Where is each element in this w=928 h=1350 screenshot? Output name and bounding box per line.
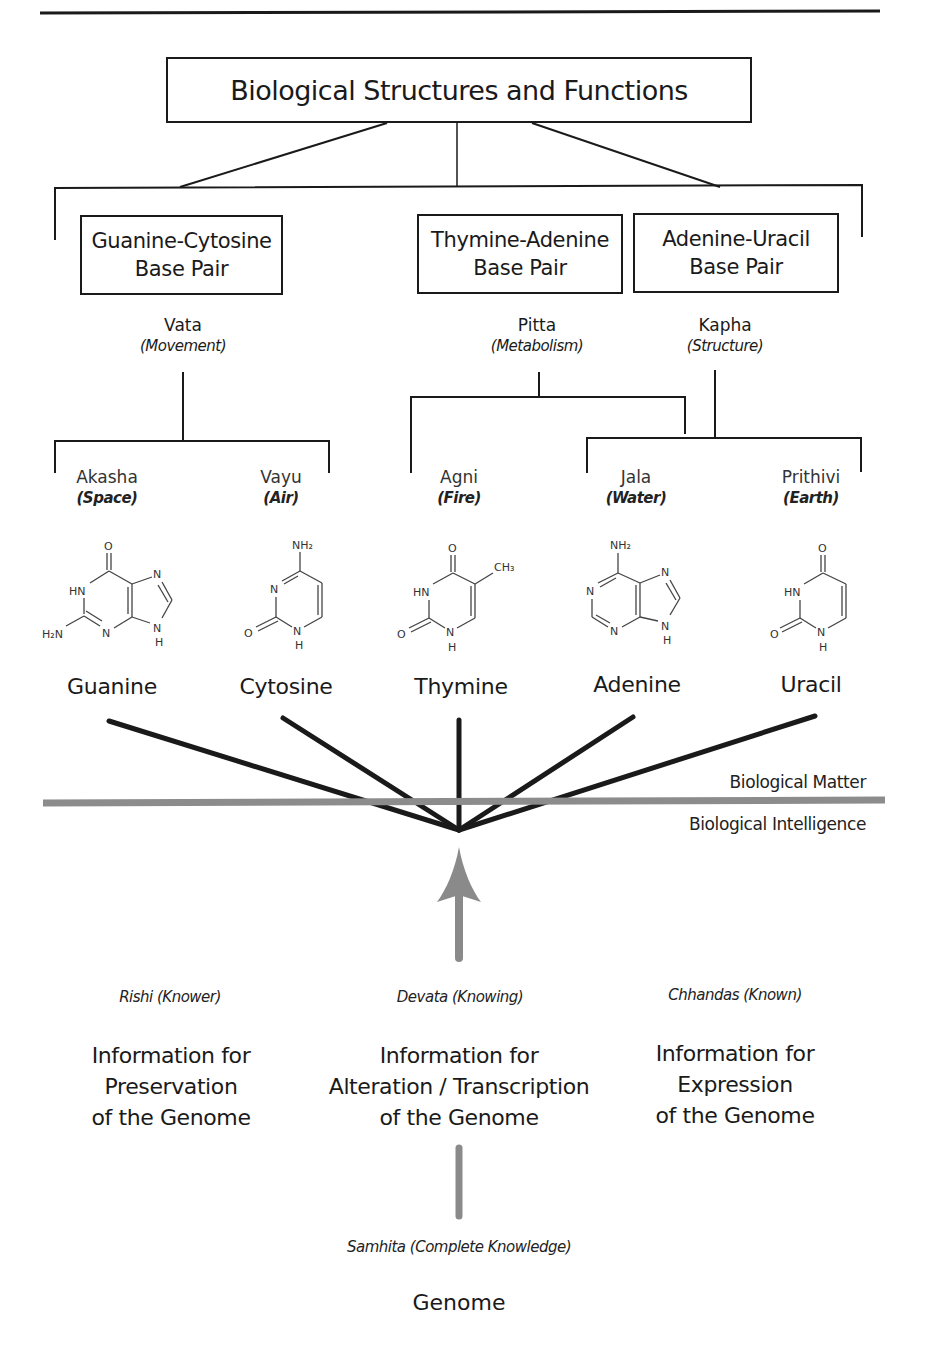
svg-text:N: N <box>446 626 454 639</box>
guanine-structure-icon: O HN H₂N N N N H <box>40 540 180 655</box>
svg-text:O: O <box>448 542 457 555</box>
svg-text:N: N <box>270 583 278 596</box>
info-line: of the Genome <box>655 1100 814 1131</box>
base-name-uracil: Uracil <box>780 672 841 697</box>
samhita-label: Samhita (Complete Knowledge) <box>347 1238 571 1256</box>
svg-text:O: O <box>104 540 113 553</box>
svg-text:N: N <box>293 625 301 638</box>
base-name-cytosine: Cytosine <box>239 674 332 699</box>
cytosine-structure-icon: NH₂ N O N H <box>240 535 340 655</box>
base-pair-label: Guanine-Cytosine <box>91 227 271 255</box>
title-box: Biological Structures and Functions <box>166 57 752 123</box>
svg-text:N: N <box>586 585 594 598</box>
element-name: Agni <box>437 466 481 488</box>
element-akasha: Akasha (Space) <box>76 466 138 508</box>
svg-text:N: N <box>102 627 110 640</box>
svg-text:H: H <box>819 641 827 654</box>
element-meaning: (Fire) <box>437 488 481 508</box>
element-jala: Jala (Water) <box>606 466 667 508</box>
svg-text:N: N <box>661 566 669 579</box>
svg-text:H: H <box>448 641 456 654</box>
dosha-meaning: (Structure) <box>687 336 763 356</box>
svg-text:H: H <box>295 639 303 652</box>
svg-text:N: N <box>661 620 669 633</box>
info-alteration: Information for Alteration / Transcripti… <box>329 1040 590 1133</box>
info-expression: Information for Expression of the Genome <box>655 1038 814 1131</box>
element-vayu: Vayu (Air) <box>260 466 302 508</box>
dosha-kapha: Kapha (Structure) <box>687 314 763 356</box>
svg-text:H: H <box>155 636 163 649</box>
uracil-structure-icon: O HN O N H <box>770 538 870 656</box>
svg-text:N: N <box>610 625 618 638</box>
svg-text:HN: HN <box>784 586 801 599</box>
base-pair-box-au: Adenine-Uracil Base Pair <box>633 213 839 293</box>
base-pair-label: Thymine-Adenine <box>431 226 609 254</box>
base-pair-label: Adenine-Uracil <box>662 225 810 253</box>
svg-text:O: O <box>818 542 827 555</box>
element-meaning: (Water) <box>606 488 667 508</box>
info-line: Information for <box>655 1038 814 1069</box>
base-pair-label: Base Pair <box>135 255 228 283</box>
svg-text:O: O <box>770 628 779 641</box>
base-name-adenine: Adenine <box>593 672 681 697</box>
top-rule <box>40 11 880 13</box>
element-meaning: (Space) <box>76 488 138 508</box>
biological-matter-label: Biological Matter <box>730 772 866 792</box>
matter-intelligence-divider <box>43 800 885 803</box>
dosha-name: Kapha <box>687 314 763 336</box>
svg-text:N: N <box>153 568 161 581</box>
dosha-pitta: Pitta (Metabolism) <box>491 314 583 356</box>
aspect-devata: Devata (Knowing) <box>397 988 523 1006</box>
element-meaning: (Earth) <box>782 488 841 508</box>
info-line: Alteration / Transcription <box>329 1071 590 1102</box>
base-pair-label: Base Pair <box>473 254 566 282</box>
dosha-meaning: (Metabolism) <box>491 336 583 356</box>
dosha-vata: Vata (Movement) <box>140 314 226 356</box>
adenine-structure-icon: NH₂ N N N N H <box>580 535 690 653</box>
svg-text:H₂N: H₂N <box>42 628 63 641</box>
element-name: Jala <box>606 466 667 488</box>
aspect-chhandas: Chhandas (Known) <box>668 986 801 1004</box>
thymine-structure-icon: O HN O N H CH₃ <box>395 538 535 656</box>
svg-text:N: N <box>817 626 825 639</box>
base-name-guanine: Guanine <box>67 674 157 699</box>
svg-text:NH₂: NH₂ <box>292 539 313 552</box>
svg-text:O: O <box>244 627 253 640</box>
dosha-name: Pitta <box>491 314 583 336</box>
svg-text:CH₃: CH₃ <box>494 561 514 574</box>
base-pair-box-gc: Guanine-Cytosine Base Pair <box>80 215 283 295</box>
upward-arrow-icon <box>437 847 481 958</box>
svg-text:O: O <box>397 628 406 641</box>
element-agni: Agni (Fire) <box>437 466 481 508</box>
svg-text:NH₂: NH₂ <box>610 539 631 552</box>
info-line: Information for <box>329 1040 590 1071</box>
info-line: Information for <box>91 1040 250 1071</box>
info-line: Preservation <box>91 1071 250 1102</box>
base-pair-box-ta: Thymine-Adenine Base Pair <box>417 214 623 294</box>
biological-intelligence-label: Biological Intelligence <box>689 814 866 834</box>
element-name: Akasha <box>76 466 138 488</box>
base-pair-label: Base Pair <box>689 253 782 281</box>
svg-text:H: H <box>663 634 671 647</box>
element-prithivi: Prithivi (Earth) <box>782 466 841 508</box>
dosha-name: Vata <box>140 314 226 336</box>
genome-label: Genome <box>413 1290 506 1315</box>
aspect-rishi: Rishi (Knower) <box>119 988 221 1006</box>
dosha-meaning: (Movement) <box>140 336 226 356</box>
info-line: of the Genome <box>91 1102 250 1133</box>
element-name: Prithivi <box>782 466 841 488</box>
info-line: of the Genome <box>329 1102 590 1133</box>
info-line: Expression <box>655 1069 814 1100</box>
base-name-thymine: Thymine <box>414 674 507 699</box>
title-text: Biological Structures and Functions <box>230 75 688 106</box>
info-preservation: Information for Preservation of the Geno… <box>91 1040 250 1133</box>
element-name: Vayu <box>260 466 302 488</box>
svg-text:N: N <box>153 622 161 635</box>
element-meaning: (Air) <box>260 488 302 508</box>
svg-text:HN: HN <box>413 586 430 599</box>
svg-text:HN: HN <box>69 585 86 598</box>
